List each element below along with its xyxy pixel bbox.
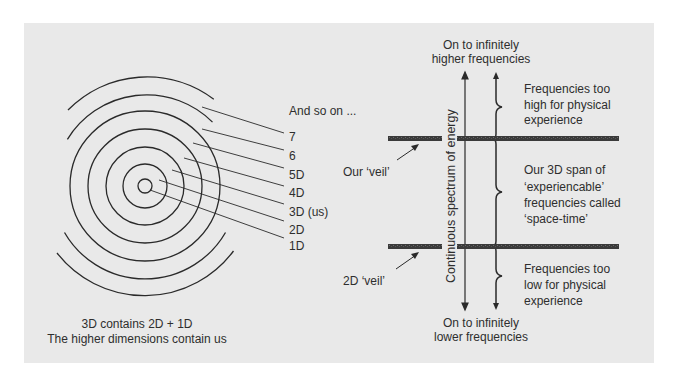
label-7: 7 (289, 130, 296, 145)
brace-column (492, 72, 502, 310)
label-5d: 5D (289, 168, 304, 183)
veil-our-right (457, 136, 619, 141)
veil-label-our: Our ‘veil’ (343, 165, 390, 180)
circle-5d (70, 111, 220, 261)
arc-7-top (68, 77, 214, 110)
bottom-label-line-1: On to infinitely (443, 316, 519, 331)
label-3d-us: 3D (us) (289, 205, 328, 220)
circle-2d (123, 164, 167, 208)
leader-7 (202, 107, 284, 133)
region-mid-line: frequencies called (524, 196, 621, 211)
region-mid-line: Our 3D span of (524, 163, 605, 178)
leader-2d (159, 180, 284, 221)
axis-label: Continuous spectrum of energy (444, 109, 458, 283)
label-2d: 2D (289, 223, 304, 238)
veil-2d-left (388, 244, 442, 249)
pointer-2d-veil (396, 255, 416, 269)
veil-label-2d: 2D ‘veil’ (343, 274, 385, 289)
region-mid-line: ‘space-time’ (524, 212, 588, 227)
veil-2d (388, 244, 619, 249)
circle-4d (88, 129, 202, 243)
region-low-line: experience (524, 294, 583, 309)
arrow-down-icon (462, 303, 468, 310)
region-low-line: Frequencies too (524, 262, 610, 277)
arc-6-bottom (65, 233, 226, 279)
label-1d: 1D (289, 239, 304, 254)
veil-2d-right (457, 244, 619, 249)
region-high-line: high for physical (524, 98, 611, 113)
pointer-our-veil (397, 147, 416, 160)
brace-low (492, 246, 502, 306)
spectrum-axis (462, 72, 468, 310)
arrow-up-icon (462, 72, 468, 79)
leader-lines (150, 107, 284, 238)
arc-6-top (67, 95, 212, 139)
veil-our (388, 136, 619, 141)
bottom-label-line-2: lower frequencies (434, 330, 528, 345)
brace-high (492, 76, 502, 139)
label-6: 6 (289, 149, 296, 164)
leader-3d (172, 170, 284, 204)
caption-line-2: The higher dimensions contain us (47, 332, 226, 347)
caption-line-1: 3D contains 2D + 1D (81, 317, 192, 332)
region-high-line: experience (524, 113, 583, 128)
brace-space-time (492, 139, 502, 246)
circle-3d (106, 147, 184, 225)
arc-7-bottom (57, 251, 234, 296)
leader-4d (184, 158, 284, 186)
label-and-so-on: And so on ... (289, 104, 356, 119)
label-4d: 4D (289, 186, 304, 201)
top-label-line-2: higher frequencies (432, 52, 531, 67)
region-mid-line: ‘experiencable’ (524, 180, 604, 195)
veil-pointers (396, 144, 419, 269)
top-label-line-1: On to infinitely (443, 38, 519, 53)
veil-our-left (388, 136, 442, 141)
circle-1d (138, 179, 152, 193)
region-low-line: low for physical (524, 278, 606, 293)
leader-6 (202, 129, 284, 150)
concentric-circles (57, 77, 234, 296)
region-high-line: Frequencies too (524, 82, 610, 97)
